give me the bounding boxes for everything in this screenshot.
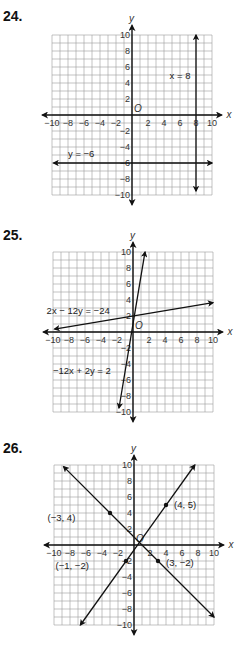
- x-tick-label: −4: [96, 335, 106, 345]
- y-tick-label: −6: [121, 375, 131, 385]
- line-equation-label: −12x + 2y = 2: [53, 365, 111, 376]
- x-tick-label: −8: [64, 335, 74, 345]
- x-tick-label: −4: [95, 118, 105, 128]
- y-tick-label: 8: [125, 46, 130, 56]
- x-tick-label: −6: [79, 118, 89, 128]
- plotted-point: [156, 559, 160, 563]
- y-tick-label: −8: [121, 391, 131, 401]
- line-equation-label: 2x − 12y = −24: [47, 305, 110, 316]
- y-tick-label: 10: [122, 460, 132, 470]
- x-tick-label: 10: [208, 335, 218, 345]
- point-label: (3, −2): [166, 557, 194, 568]
- y-tick-label: −8: [120, 174, 130, 184]
- x-tick-label: 8: [194, 335, 199, 345]
- y-tick-label: 10: [121, 247, 131, 257]
- origin-label: O: [134, 103, 142, 114]
- x-axis-label: x: [225, 109, 232, 120]
- x-tick-label: 10: [207, 118, 217, 128]
- x-tick-label: −6: [80, 335, 90, 345]
- x-tick-label: 10: [209, 548, 219, 558]
- plotted-point: [108, 511, 112, 515]
- point-label: (4, 5): [174, 499, 196, 510]
- x-axis-label: x: [226, 326, 233, 337]
- y-tick-label: 6: [125, 62, 130, 72]
- y-tick-label: 2: [125, 94, 130, 104]
- x-tick-label: 4: [162, 335, 167, 345]
- graph-24: −10−8−6−4−2246810108642−2−4−6−8−10xyOx =…: [42, 13, 232, 204]
- x-tick-label: 8: [195, 548, 200, 558]
- x-tick-label: 2: [146, 335, 151, 345]
- graph-26: −10−8−6−4−2246810108642−2−4−6−8−10xyO(−3…: [44, 443, 234, 634]
- x-tick-label: 4: [161, 118, 166, 128]
- coordinate-plots: −10−8−6−4−2246810108642−2−4−6−8−10xyOx =…: [0, 0, 246, 646]
- x-tick-label: −10: [46, 548, 61, 558]
- y-tick-label: −2: [120, 126, 130, 136]
- y-tick-label: 6: [126, 279, 131, 289]
- y-tick-label: −8: [122, 604, 132, 614]
- y-tick-label: 4: [125, 78, 130, 88]
- line-equation-label: x = 8: [170, 70, 191, 81]
- y-tick-label: 4: [127, 508, 132, 518]
- origin-label: O: [135, 320, 143, 331]
- x-tick-label: 2: [145, 118, 150, 128]
- x-tick-label: −10: [44, 118, 59, 128]
- x-axis-label: x: [227, 539, 234, 550]
- line-equation-label: y = −6: [68, 148, 94, 159]
- y-tick-label: 10: [120, 30, 130, 40]
- plotted-point: [124, 559, 128, 563]
- y-tick-label: −10: [115, 190, 130, 200]
- y-tick-label: −10: [116, 407, 131, 417]
- plotted-point: [164, 503, 168, 507]
- x-tick-label: −4: [97, 548, 107, 558]
- y-tick-label: −6: [122, 588, 132, 598]
- y-tick-label: 6: [127, 492, 132, 502]
- y-tick-label: 8: [127, 476, 132, 486]
- x-tick-label: 6: [178, 335, 183, 345]
- x-tick-label: −10: [45, 335, 60, 345]
- y-tick-label: −4: [122, 572, 132, 582]
- x-tick-label: −8: [65, 548, 75, 558]
- graph-25: −10−8−6−4−2246810108642−2−4−6−8−10xyO2x …: [43, 230, 233, 421]
- point-label: (−1, −2): [56, 560, 89, 571]
- y-tick-label: −10: [117, 620, 132, 630]
- y-tick-label: 8: [126, 263, 131, 273]
- x-tick-label: 6: [177, 118, 182, 128]
- point-label: (−3, 4): [48, 512, 76, 523]
- y-tick-label: −4: [120, 142, 130, 152]
- y-axis-label: y: [129, 230, 136, 241]
- x-tick-label: −6: [81, 548, 91, 558]
- y-axis-label: y: [130, 443, 137, 454]
- y-axis-label: y: [128, 13, 135, 24]
- y-tick-label: 4: [126, 295, 131, 305]
- x-tick-label: −8: [63, 118, 73, 128]
